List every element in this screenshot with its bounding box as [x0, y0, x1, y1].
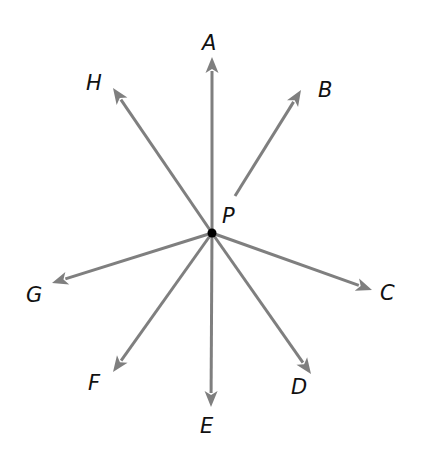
ray-line	[211, 233, 212, 393]
label-h: H	[86, 71, 102, 95]
ray-ph	[113, 88, 212, 233]
ray-pd	[212, 233, 311, 374]
label-d: D	[291, 375, 307, 399]
ray-line	[65, 233, 212, 279]
ray-pb	[235, 90, 301, 196]
point-p	[208, 229, 217, 238]
ray-pg	[52, 233, 212, 284]
ray-line	[235, 102, 294, 196]
label-b: B	[318, 78, 332, 102]
ray-pc	[212, 233, 372, 291]
arrowhead-icon	[287, 90, 301, 107]
arrowhead-icon	[205, 391, 218, 407]
label-f: F	[88, 371, 101, 395]
arrowhead-icon	[206, 57, 219, 73]
label-c: C	[380, 281, 395, 305]
label-g: G	[26, 283, 42, 307]
ray-line	[121, 233, 212, 361]
label-e: E	[200, 414, 214, 438]
label-p: P	[222, 204, 235, 228]
arrowhead-icon	[113, 88, 127, 105]
arrowhead-icon	[113, 355, 128, 372]
ray-line	[212, 233, 359, 285]
rays-diagram: P ABCDEFGH	[0, 0, 422, 466]
ray-line	[121, 100, 212, 233]
ray-pe	[205, 233, 218, 407]
ray-pf	[113, 233, 212, 372]
ray-line	[212, 233, 303, 363]
ray-pa	[206, 57, 219, 233]
label-a: A	[200, 31, 216, 55]
arrowhead-icon	[296, 357, 311, 374]
